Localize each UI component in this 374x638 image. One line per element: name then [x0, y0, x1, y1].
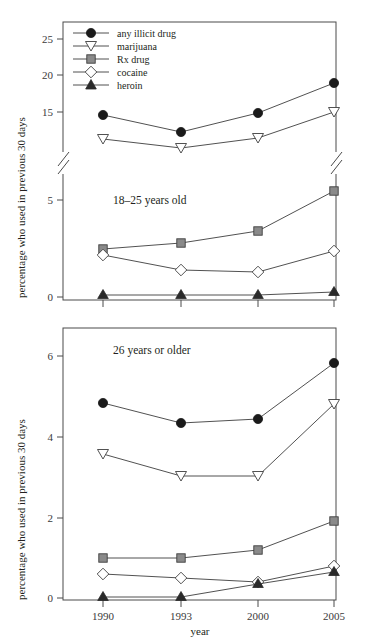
bottom-series-rx-drug: [99, 517, 338, 562]
data-point: [98, 398, 107, 407]
data-point: [253, 290, 264, 299]
data-point: [329, 287, 340, 296]
data-point: [177, 239, 185, 247]
top-y-axis-title: percentage who used in previous 30 days: [15, 117, 27, 298]
data-point: [330, 187, 338, 195]
bottom-xtick-1990: 1990: [92, 610, 115, 622]
top-x-ticks: [103, 300, 334, 307]
top-series-marijuana: [98, 108, 340, 154]
data-point: [329, 358, 338, 367]
filled-square-icon: [87, 55, 95, 63]
bottom-ytick-4: 4: [48, 431, 54, 443]
legend-label: cocaine: [117, 67, 148, 78]
figure-root: percentage who used in previous 30 days …: [0, 0, 374, 638]
top-ytick-5: 5: [48, 194, 54, 206]
data-point: [176, 127, 185, 136]
legend-item-any-illicit-drug: any illicit drug: [73, 28, 176, 39]
bottom-ytick-2: 2: [48, 512, 54, 524]
legend-item-rx-drug: Rx drug: [73, 54, 150, 65]
data-point: [253, 414, 262, 423]
data-point: [254, 227, 262, 235]
bottom-series-any-illicit-drug: [98, 358, 338, 427]
top-ytick-20: 20: [42, 69, 54, 81]
top-ytick-15: 15: [42, 106, 54, 118]
top-series-cocaine: [97, 245, 340, 278]
data-point: [99, 554, 107, 562]
data-point: [330, 517, 338, 525]
bottom-y-ticks: 6 4 2 0: [48, 350, 64, 604]
top-panel: percentage who used in previous 30 days …: [15, 22, 342, 307]
legend-label: heroin: [117, 80, 143, 91]
data-point: [98, 450, 109, 460]
legend-item-heroin: heroin: [73, 80, 143, 91]
bottom-panel-label: 26 years or older: [113, 344, 191, 357]
top-series-heroin: [98, 287, 340, 299]
data-point: [176, 290, 187, 299]
legend: any illicit drug marijuana Rx drug cocai…: [73, 28, 176, 91]
bottom-x-ticks: 1990 1993 2000 2005: [92, 600, 346, 622]
bottom-ytick-6: 6: [48, 350, 54, 362]
bottom-xtick-2005: 2005: [323, 610, 346, 622]
data-point: [252, 266, 264, 278]
top-ytick-25: 25: [42, 33, 54, 45]
data-point: [98, 290, 109, 299]
legend-label: Rx drug: [117, 54, 150, 65]
bottom-panel: percentage who used in previous 30 days …: [15, 328, 346, 637]
legend-item-cocaine: cocaine: [73, 66, 148, 78]
data-point: [98, 110, 107, 119]
filled-circle-icon: [86, 28, 95, 37]
data-point: [328, 245, 340, 257]
drug-use-chart-svg: percentage who used in previous 30 days …: [0, 0, 374, 638]
data-point: [175, 264, 187, 276]
top-axis-break-right: [331, 152, 342, 174]
data-point: [98, 592, 109, 601]
top-panel-label: 18–25 years old: [113, 194, 187, 207]
bottom-x-axis-title: year: [191, 625, 210, 637]
bottom-ytick-0: 0: [48, 592, 54, 604]
bottom-series-heroin: [98, 567, 340, 601]
legend-label: marijuana: [117, 41, 158, 52]
bottom-series-cocaine: [97, 560, 340, 588]
data-point: [177, 554, 185, 562]
open-diamond-icon: [85, 66, 97, 78]
data-point: [97, 568, 109, 580]
legend-label: any illicit drug: [117, 28, 176, 39]
bottom-xtick-2000: 2000: [247, 610, 270, 622]
bottom-xtick-1993: 1993: [170, 610, 193, 622]
data-point: [176, 144, 187, 154]
data-point: [254, 546, 262, 554]
filled-triangle-up-icon: [86, 80, 97, 90]
data-point: [329, 78, 338, 87]
data-point: [175, 572, 187, 584]
top-ytick-0: 0: [48, 291, 54, 303]
bottom-series-marijuana: [98, 400, 340, 482]
data-point: [253, 108, 262, 117]
legend-item-marijuana: marijuana: [73, 41, 158, 52]
top-axis-break-left: [58, 152, 69, 174]
data-point: [176, 418, 185, 427]
bottom-y-axis-title: percentage who used in previous 30 days: [15, 419, 27, 600]
data-point: [329, 108, 340, 118]
